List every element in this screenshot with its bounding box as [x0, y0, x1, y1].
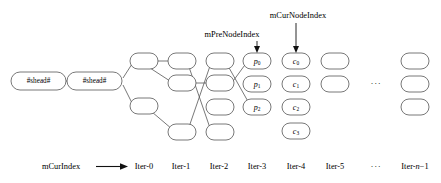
node-iter2-row2[interactable] — [206, 75, 234, 91]
pointer-mprenodeindex-arrowhead — [254, 46, 260, 53]
node-p1[interactable]: p1 — [243, 76, 271, 92]
diagram-canvas: #shead# #shead# — [0, 0, 441, 183]
node-iter5-row2-shape — [321, 76, 349, 92]
edge-n0r1-n1r2 — [150, 68, 170, 81]
node-iter1-row1[interactable] — [168, 53, 196, 69]
node-iter5-row1-shape — [321, 53, 349, 69]
node-head-1-label: #shead# — [83, 77, 107, 85]
node-iter2-row2-shape — [206, 75, 234, 91]
node-itern-row3[interactable] — [401, 99, 429, 115]
node-itern-row1-shape — [401, 53, 429, 69]
node-iter2-row1-shape — [206, 53, 234, 69]
axis-label-iter-3: Iter-3 — [248, 162, 266, 171]
axis-label-iter-5: Iter-5 — [326, 162, 344, 171]
node-iter1-row4-shape — [168, 124, 196, 140]
node-iter0-row1-shape — [130, 53, 158, 69]
edge-head1-n0r1 — [123, 64, 132, 78]
pointer-mcurnodeindex-arrowhead — [293, 46, 299, 53]
node-iter0-row3[interactable] — [130, 98, 158, 114]
diagram-root: #shead# #shead# — [0, 0, 441, 183]
node-itern-row3-shape — [401, 99, 429, 115]
node-iter0-row3-shape — [130, 98, 158, 114]
column-iter-n-1 — [401, 53, 429, 115]
node-iter2-row4-shape — [206, 124, 234, 140]
node-p2[interactable]: p2 — [243, 99, 271, 115]
node-iter5-row2[interactable] — [321, 76, 349, 92]
edge-n0r3-n1r4 — [152, 112, 172, 129]
node-itern-row2-shape — [401, 76, 429, 92]
grid-ellipsis: ··· — [371, 78, 382, 88]
node-iter2-row3[interactable] — [206, 99, 234, 115]
axis-label-iter-1: Iter-1 — [172, 162, 190, 171]
node-iter1-row2-shape — [168, 75, 196, 91]
column-iter-2 — [206, 53, 234, 140]
node-itern-row2[interactable] — [401, 76, 429, 92]
axis-arrow-head — [120, 163, 128, 169]
node-head-0-label: #shead# — [27, 77, 51, 85]
node-head-0[interactable]: #shead# — [11, 72, 66, 90]
node-head-1[interactable]: #shead# — [67, 72, 122, 90]
node-p0[interactable]: p0 — [243, 53, 271, 69]
axis-label-iter-n-1: Iter-n−1 — [401, 162, 428, 171]
node-iter1-row1-shape — [168, 53, 196, 69]
node-c1[interactable]: c1 — [282, 76, 310, 92]
node-iter0-row1[interactable] — [130, 53, 158, 69]
column-iter-3: p0 p1 p2 — [243, 53, 271, 115]
node-c2[interactable]: c2 — [282, 99, 310, 115]
node-iter5-row1[interactable] — [321, 53, 349, 69]
axis-layer: mCurIndex Iter-0 Iter-1 Iter-2 Iter-3 It… — [42, 161, 429, 171]
node-c3[interactable]: c3 — [282, 123, 310, 139]
axis-label-iter-2: Iter-2 — [210, 162, 228, 171]
node-iter2-row1[interactable] — [206, 53, 234, 69]
column-iter-5 — [321, 53, 349, 92]
pointer-mcurnodeindex: mCurNodeIndex — [270, 11, 327, 53]
pointer-mprenodeindex-label: mPreNodeIndex — [205, 30, 261, 39]
pointer-mprenodeindex: mPreNodeIndex — [205, 30, 261, 53]
column-iter-0 — [130, 53, 158, 114]
node-iter2-row4[interactable] — [206, 124, 234, 140]
axis-ellipsis: ··· — [371, 161, 382, 171]
node-iter1-row2[interactable] — [168, 75, 196, 91]
node-itern-row1[interactable] — [401, 53, 429, 69]
column-iter-1 — [168, 53, 196, 140]
edge-head1-n0r3 — [123, 85, 132, 103]
node-iter2-row3-shape — [206, 99, 234, 115]
node-iter1-row4[interactable] — [168, 124, 196, 140]
axis-mcurindex-label: mCurIndex — [42, 162, 81, 171]
axis-label-iter-0: Iter-0 — [135, 162, 153, 171]
pointer-mcurnodeindex-label: mCurNodeIndex — [270, 11, 327, 20]
column-iter-4: c0 c1 c2 c3 — [282, 53, 310, 139]
axis-label-iter-4: Iter-4 — [287, 162, 306, 171]
node-c0[interactable]: c0 — [282, 53, 310, 69]
